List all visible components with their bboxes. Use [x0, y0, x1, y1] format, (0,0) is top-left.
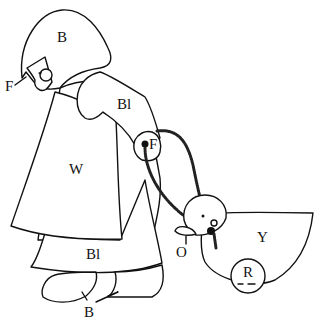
- shoe-left: [42, 272, 96, 302]
- label-duck-body: Y: [257, 230, 268, 245]
- label-skirt: Bl: [86, 247, 100, 262]
- coloring-diagram: B F Bl F W Bl B Y O R: [0, 0, 319, 326]
- leash-handle-knob: [142, 141, 149, 148]
- ear: [40, 69, 52, 81]
- duck-eye: [202, 215, 205, 218]
- label-bonnet: B: [57, 30, 67, 45]
- label-wheel: R: [243, 265, 253, 280]
- line-art: [0, 0, 319, 326]
- face-pointer: [15, 77, 26, 85]
- label-sleeve: Bl: [117, 97, 131, 112]
- label-apron: W: [69, 162, 83, 177]
- bow-tail: [214, 234, 216, 248]
- label-shoes: B: [84, 305, 94, 320]
- label-face: F: [5, 79, 13, 94]
- label-duck-beak: O: [176, 245, 187, 260]
- label-hand: F: [149, 137, 157, 152]
